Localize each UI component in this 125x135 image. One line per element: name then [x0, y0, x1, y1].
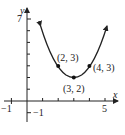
- y-ticks: [27, 19, 31, 113]
- x-tick-5-label: 5: [102, 103, 107, 114]
- y-tick-neg1-label: −1: [33, 107, 44, 118]
- point-3-2: [72, 76, 76, 80]
- point-label-3-2: (3, 2): [63, 83, 85, 95]
- point-4-3: [87, 64, 91, 68]
- point-label-2-3: (2, 3): [57, 52, 79, 64]
- x-axis-label: x: [112, 89, 118, 100]
- x-tick-neg1-label: −1: [1, 103, 12, 114]
- point-label-4-3: (4, 3): [93, 62, 115, 74]
- y-tick-7-label: 7: [17, 13, 22, 24]
- parabola-graph: y x 7 −1 5 −1 (2, 3) (4, 3) (3, 2): [0, 0, 125, 135]
- point-2-3: [56, 64, 60, 68]
